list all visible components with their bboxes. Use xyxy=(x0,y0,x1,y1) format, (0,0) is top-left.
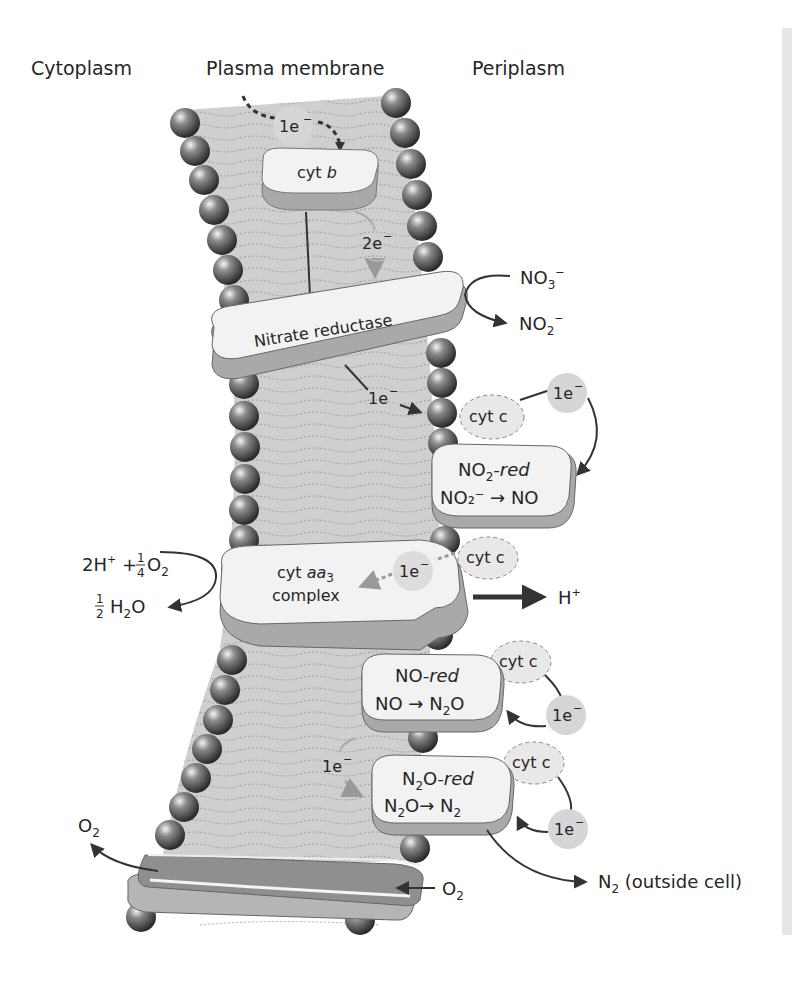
svg-text:1: 1 xyxy=(137,551,145,565)
svg-text:complex: complex xyxy=(272,586,340,605)
header-cytoplasm: Cytoplasm xyxy=(31,57,132,79)
svg-text:cyt c: cyt c xyxy=(512,753,550,772)
svg-text:2: 2 xyxy=(96,607,104,621)
svg-text:O2: O2 xyxy=(147,554,169,579)
label-o2-left: O2 xyxy=(78,815,100,840)
cyt-c-1: cyt c xyxy=(460,395,524,439)
label-water: H2O xyxy=(110,596,145,621)
svg-text:−: − xyxy=(343,753,352,766)
svg-text:−: − xyxy=(420,558,429,571)
svg-text:−: − xyxy=(575,816,584,829)
electron-top: 1e − xyxy=(273,106,313,146)
svg-text:cyt b: cyt b xyxy=(297,163,337,182)
label-no2: NO2− xyxy=(519,312,564,338)
svg-text:−: − xyxy=(303,113,312,126)
no-red-protein: NO-red NO → N2O xyxy=(362,654,504,732)
svg-text:1e: 1e xyxy=(399,562,419,581)
no2-red-protein: NO2-red NO₂⁻ → NO xyxy=(432,444,576,528)
svg-text:−: − xyxy=(383,230,392,243)
svg-text:−: − xyxy=(573,702,582,715)
electron-nored: 1e − xyxy=(546,695,586,735)
svg-text:1e: 1e xyxy=(279,117,299,136)
cyt-aa3-complex: cyt aa3 complex xyxy=(220,540,468,650)
svg-text:NO-red: NO-red xyxy=(395,665,460,686)
header-plasma-membrane: Plasma membrane xyxy=(206,57,384,79)
svg-text:4: 4 xyxy=(137,566,145,580)
svg-text:−: − xyxy=(389,385,398,398)
svg-text:1: 1 xyxy=(96,592,104,606)
svg-text:1e: 1e xyxy=(368,389,388,408)
svg-text:1e: 1e xyxy=(553,384,573,403)
svg-text:NO₂⁻ → NO: NO₂⁻ → NO xyxy=(440,487,539,508)
svg-text:1e: 1e xyxy=(554,820,574,839)
svg-text:1e: 1e xyxy=(552,706,572,725)
svg-text:1e: 1e xyxy=(322,757,342,776)
label-h-plus-out: H+ xyxy=(558,586,581,608)
electron-aa3: 1e − xyxy=(393,551,433,591)
label-o2-right: O2 xyxy=(442,878,464,903)
denitrification-diagram: Cytoplasm Plasma membrane Periplasm xyxy=(0,0,792,986)
n2o-red-protein: N2O-red N2O→ N2 xyxy=(372,755,514,835)
label-n2-outside: N2 (outside cell) xyxy=(598,871,742,896)
cyt-b-protein: cyt b xyxy=(262,148,378,210)
svg-text:cyt c: cyt c xyxy=(469,407,507,426)
electron-cytc-1: 1e − xyxy=(547,373,587,413)
header-periplasm: Periplasm xyxy=(472,57,565,79)
svg-text:cyt c: cyt c xyxy=(499,652,537,671)
svg-text:−: − xyxy=(574,380,583,393)
svg-text:cyt aa3: cyt aa3 xyxy=(277,563,334,585)
label-2h-o2: 2H+ + xyxy=(82,553,137,575)
svg-text:2e: 2e xyxy=(362,234,382,253)
cyt-c-2: cyt c xyxy=(458,537,518,579)
electron-n2ored: 1e − xyxy=(548,809,588,849)
label-no3: NO3− xyxy=(520,266,565,292)
svg-text:cyt c: cyt c xyxy=(466,548,504,567)
oxygen-channel-protein xyxy=(128,855,424,920)
